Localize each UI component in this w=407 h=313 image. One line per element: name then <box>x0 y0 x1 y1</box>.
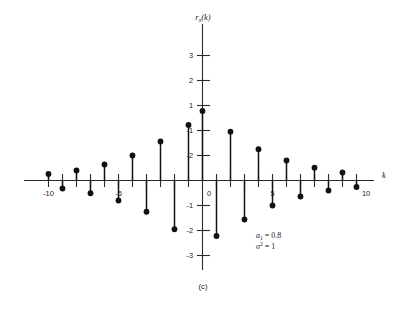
x-axis-title: k <box>382 170 386 180</box>
y-tick-label: -2 <box>186 226 193 235</box>
annotation-block: a1 = 0.8 σ2 = 1 <box>256 231 281 251</box>
y-tick-labels: 3 2 1 -1 -2 -1 -2 -3 <box>186 51 193 260</box>
y-tick-label: 2 <box>189 76 193 85</box>
y-tick-label: 3 <box>189 51 193 60</box>
y-tick-label: -3 <box>186 251 193 260</box>
stem-marker <box>74 168 80 174</box>
stem-marker <box>88 190 94 196</box>
stem-marker <box>102 162 108 168</box>
x-tick-label: -10 <box>43 189 54 198</box>
stem-marker <box>130 153 136 159</box>
axis-titles: rx(k) k <box>195 12 386 180</box>
stem-marker <box>158 139 164 145</box>
stem-marker <box>60 186 66 192</box>
stem-marker <box>340 170 346 176</box>
x-tick-label: 0 <box>207 189 211 198</box>
stem-marker <box>46 171 52 177</box>
stem-marker <box>172 226 178 232</box>
stem-marker <box>144 209 150 215</box>
stem-plot-svg: -10 -5 0 5 10 3 2 1 -1 -2 -1 -2 -3 rx(k)… <box>0 0 407 313</box>
stem-marker <box>284 158 290 164</box>
stem-marker <box>116 198 122 204</box>
y-tick-label: -2 <box>186 151 193 160</box>
annotation-a1: a1 = 0.8 <box>256 231 281 241</box>
stem-marker <box>186 122 192 128</box>
stem-marker <box>228 129 234 135</box>
x-tick-label: 10 <box>362 189 370 198</box>
y-tick-label: -1 <box>186 126 193 135</box>
y-tick-label: 1 <box>189 101 193 110</box>
stem-marker <box>312 165 318 171</box>
figure-caption: (c) <box>199 282 208 291</box>
stem-marker <box>298 194 304 200</box>
y-tick-label: -1 <box>186 201 193 210</box>
annotation-sigma: σ2 = 1 <box>256 241 275 251</box>
axes-group <box>24 24 374 270</box>
stem-marker <box>256 146 262 152</box>
figure-container: -10 -5 0 5 10 3 2 1 -1 -2 -1 -2 -3 rx(k)… <box>0 0 407 313</box>
stem-marker <box>242 217 248 223</box>
stem-marker <box>354 184 360 190</box>
stem-marker <box>326 188 332 194</box>
y-axis-title: rx(k) <box>195 12 211 23</box>
stem-marker <box>200 108 206 114</box>
stem-marker <box>214 233 220 239</box>
stem-marker <box>270 203 276 209</box>
y-tick-marks <box>197 56 210 256</box>
